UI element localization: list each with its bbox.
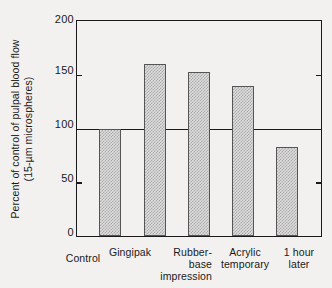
x-label-acrylic-line1: Acrylic (216, 246, 274, 258)
y-tick-mark-50-right (316, 182, 321, 184)
x-label-acrylic-line2: temporary (216, 258, 274, 270)
y-tick-mark-150-right (316, 75, 321, 77)
y-tick-mark-50-left (77, 182, 82, 184)
bar-rubber-base-impression (188, 72, 210, 236)
y-tick-label-100: 100 (40, 119, 74, 130)
y-axis-title-line1: Percent of control of pulpal blood flow (9, 39, 22, 218)
x-label-one-hour-line1: 1 hour (275, 246, 323, 258)
y-axis-title: Percent of control of pulpal blood flow … (2, 18, 42, 240)
plot-area (76, 20, 322, 237)
y-axis-title-line2: (15-µm microspheres) (22, 39, 35, 218)
bar-gingipak (144, 64, 166, 236)
y-tick-label-200: 200 (40, 14, 74, 25)
bar-acrylic-temporary (232, 86, 254, 237)
y-tick-label-0: 0 (40, 227, 74, 238)
x-axis-category-labels: Control Gingipak Rubber- base impression… (0, 240, 332, 288)
y-tick-label-50: 50 (40, 173, 74, 184)
x-label-rubber-base-line3: impression (150, 270, 212, 282)
bar-chart: Percent of control of pulpal blood flow … (0, 0, 332, 288)
y-tick-label-150: 150 (40, 65, 74, 76)
bar-control (99, 129, 121, 237)
y-tick-mark-150-left (77, 75, 82, 77)
x-label-one-hour-line2: later (275, 258, 323, 270)
x-label-rubber-base-line1: Rubber- (150, 246, 212, 258)
x-label-rubber-base-line2: base (150, 258, 212, 270)
bar-1-hour-later (276, 147, 298, 236)
x-label-control: Control (60, 252, 106, 264)
x-label-gingipak: Gingipak (104, 246, 156, 258)
